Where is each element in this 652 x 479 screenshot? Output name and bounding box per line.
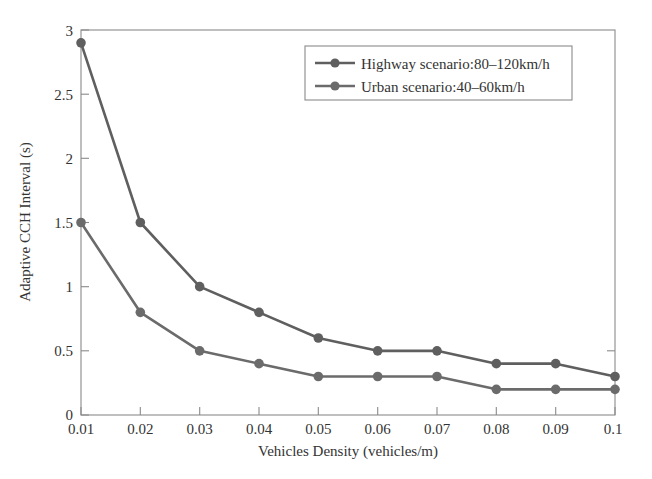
x-tick-label: 0.09 [543,421,569,437]
y-tick-label: 2 [66,151,74,167]
legend-label-highway: Highway scenario:80–120km/h [361,56,550,72]
x-tick-label: 0.08 [483,421,509,437]
line-chart: 0 0.5 1 1.5 2 2.5 3 0.01 0.02 0.03 0.04 … [0,0,652,479]
legend-marker-urban [330,81,339,90]
chart-legend: Highway scenario:80–120km/h Urban scenar… [305,46,572,100]
y-tick-labels: 0 0.5 1 1.5 2 2.5 3 [54,23,73,424]
y-tick-label: 1.5 [54,215,73,231]
data-point [76,218,86,228]
data-point [551,359,561,369]
x-tick-label: 0.03 [187,421,213,437]
x-tick-labels: 0.01 0.02 0.03 0.04 0.05 0.06 0.07 0.08 … [68,421,623,437]
data-point [254,359,264,369]
y-axis-title: Adaptive CCH Interval (s) [17,142,34,302]
x-tick-label: 0.06 [365,421,392,437]
x-axis-ticks [81,351,615,415]
data-point [373,372,383,382]
data-point [551,385,561,395]
y-tick-label: 3 [66,23,74,39]
data-point [195,346,205,356]
legend-label-urban: Urban scenario:40–60km/h [361,79,525,95]
x-axis-title: Vehicles Density (vehicles/m) [258,443,438,460]
legend-marker-highway [330,58,339,67]
data-point [136,218,146,228]
y-tick-label: 2.5 [54,87,73,103]
y-tick-label: 1 [66,279,74,295]
x-tick-label: 0.04 [246,421,273,437]
data-point [254,308,264,318]
x-tick-label: 0.01 [68,421,94,437]
data-point [610,385,620,395]
x-tick-label: 0.07 [424,421,451,437]
chart-figure: 0 0.5 1 1.5 2 2.5 3 0.01 0.02 0.03 0.04 … [0,0,652,479]
data-point [492,359,502,369]
data-point [373,346,383,356]
y-tick-label: 0.5 [54,343,73,359]
data-point [432,372,442,382]
data-point [314,333,324,343]
data-point [432,346,442,356]
x-tick-label: 0.02 [127,421,153,437]
data-point [136,308,146,318]
data-point [76,38,86,48]
data-point [492,385,502,395]
x-tick-label: 0.05 [305,421,331,437]
data-point [314,372,324,382]
data-point [195,282,205,292]
x-tick-label: 0.1 [604,421,623,437]
data-point [610,372,620,382]
series-urban [76,218,620,394]
